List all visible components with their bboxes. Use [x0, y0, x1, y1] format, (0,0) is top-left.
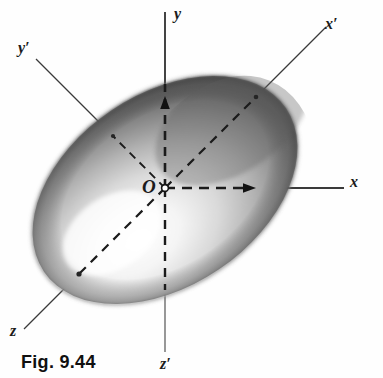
figure-illustration — [0, 0, 383, 378]
origin-point — [162, 185, 169, 192]
marker-x-prime-icon — [254, 95, 259, 100]
axis-label-y-prime: y′ — [18, 40, 30, 56]
axis-label-z-prime: z′ — [160, 356, 171, 372]
figure-container: y x x′ y′ z z′ O Fig. 9.44 — [0, 0, 383, 378]
marker-z-icon — [76, 271, 81, 276]
axis-label-x-prime: x′ — [325, 16, 338, 32]
ellipsoid-body — [0, 27, 341, 352]
axis-label-y: y — [174, 6, 181, 22]
axis-label-z: z — [10, 323, 16, 339]
figure-caption: Fig. 9.44 — [21, 352, 96, 373]
origin-label: O — [142, 177, 156, 196]
origin-dot-icon — [162, 185, 169, 192]
axis-label-x: x — [350, 174, 358, 190]
marker-y-prime-icon — [111, 134, 115, 138]
